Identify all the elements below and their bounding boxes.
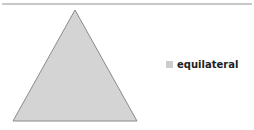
legend: equilateral	[166, 59, 238, 70]
legend-label: equilateral	[177, 59, 238, 70]
legend-swatch	[166, 61, 173, 68]
